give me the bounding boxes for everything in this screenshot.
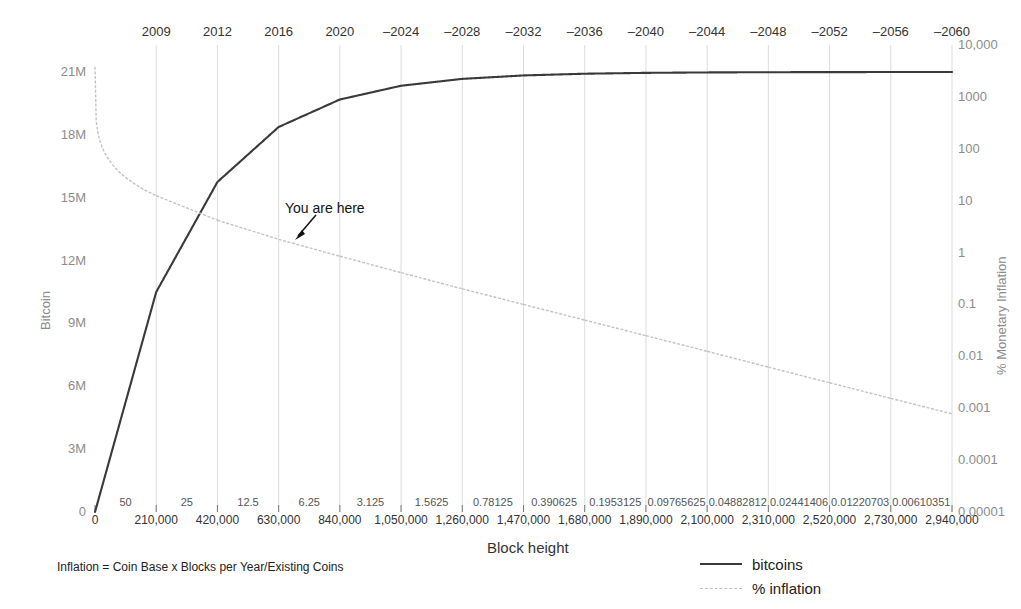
right-axis-tick: 100 — [958, 141, 980, 156]
year-label: –2036 — [557, 24, 613, 39]
right-axis-tick: 10 — [958, 193, 972, 208]
left-axis-title: Bitcoin — [38, 291, 53, 330]
year-label: 2016 — [251, 24, 307, 39]
left-axis-tick: 12M — [46, 253, 86, 268]
gridlines-group — [156, 45, 952, 512]
right-axis-tick: 0.0001 — [958, 452, 998, 467]
right-axis-tick: 0.1 — [958, 296, 976, 311]
year-label: –2040 — [618, 24, 674, 39]
you-are-here-annotation: You are here — [285, 200, 365, 216]
block-height-label: 2,940,000 — [912, 513, 992, 527]
legend: bitcoins % inflation — [700, 552, 821, 600]
year-label: –2044 — [679, 24, 735, 39]
right-axis-title: % Monetary Inflation — [994, 256, 1009, 375]
footnote: Inflation = Coin Base x Blocks per Year/… — [57, 560, 344, 574]
legend-label-bitcoins: bitcoins — [752, 556, 803, 573]
year-label: 2012 — [189, 24, 245, 39]
right-axis-tick: 0.01 — [958, 348, 983, 363]
left-axis-tick: 15M — [46, 190, 86, 205]
year-label: –2028 — [434, 24, 490, 39]
block-subsidy-label: 0.00610351 — [881, 496, 961, 508]
legend-item-inflation: % inflation — [700, 576, 821, 600]
right-axis-tick: 1000 — [958, 89, 987, 104]
left-axis-tick: 18M — [46, 127, 86, 142]
right-axis-tick: 1 — [958, 245, 965, 260]
year-label: –2032 — [496, 24, 552, 39]
year-label: –2024 — [373, 24, 429, 39]
you-are-here-arrow-icon — [295, 215, 316, 240]
right-axis-tick: 0.001 — [958, 400, 991, 415]
year-label: –2052 — [802, 24, 858, 39]
year-label: 2009 — [128, 24, 184, 39]
year-label: –2056 — [863, 24, 919, 39]
legend-label-inflation: % inflation — [752, 580, 821, 597]
left-axis-tick: 3M — [46, 441, 86, 456]
right-axis-tick: 10,000 — [958, 37, 998, 52]
bitcoin-supply-inflation-chart: 2009201220162020–2024–2028–2032–2036–204… — [0, 0, 1021, 609]
year-label: 2020 — [312, 24, 368, 39]
x-axis-title: Block height — [487, 539, 569, 556]
legend-item-bitcoins: bitcoins — [700, 552, 821, 576]
left-axis-tick: 21M — [46, 64, 86, 79]
year-label: –2048 — [740, 24, 796, 39]
legend-swatch-inflation — [700, 588, 742, 589]
legend-swatch-bitcoins — [700, 563, 742, 565]
left-axis-tick: 6M — [46, 378, 86, 393]
